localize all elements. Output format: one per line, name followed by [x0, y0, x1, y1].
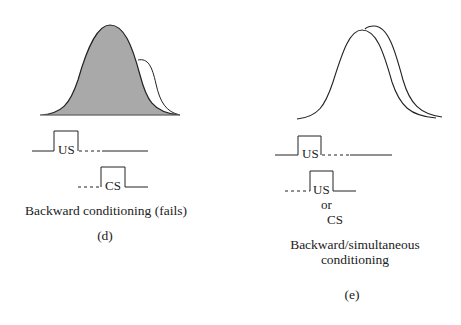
- panel-e-cs-label: CS: [327, 212, 343, 228]
- panel-e-ur-curve: [297, 30, 436, 119]
- panel-e-second-us-label: US: [313, 182, 330, 198]
- panel-d-us-label: US: [58, 142, 75, 158]
- diagram-canvas: [0, 0, 461, 325]
- panel-e-label: (e): [337, 287, 367, 303]
- panel-e-caption-line1: Backward/simultaneous: [290, 237, 420, 253]
- panel-e-us-label: US: [302, 146, 319, 162]
- panel-d-label: (d): [90, 228, 120, 244]
- panel-d-ur-curve: [40, 25, 180, 115]
- panel-d-caption: Backward conditioning (fails): [24, 203, 188, 219]
- panel-d-cs-label: CS: [105, 178, 121, 194]
- panel-e-or-label: or: [321, 197, 332, 213]
- panel-e-caption-line2: conditioning: [290, 252, 420, 268]
